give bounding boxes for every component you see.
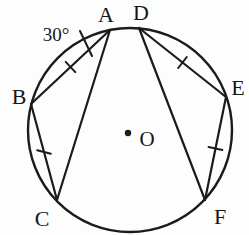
- point-label-b: B: [12, 84, 27, 109]
- tick-mark-ef: [209, 147, 223, 150]
- point-label-a: A: [98, 2, 114, 27]
- tick-mark-de: [178, 57, 187, 68]
- point-label-f: F: [214, 204, 226, 229]
- angle-label-30: 30°: [43, 24, 70, 45]
- point-label-c: C: [35, 206, 50, 231]
- point-label-d: D: [133, 0, 149, 25]
- circle-outline: [28, 28, 232, 232]
- point-label-e: E: [231, 75, 244, 100]
- circle-diagram-canvas: A D B E C F O 30°: [0, 0, 249, 235]
- center-dot: [125, 130, 131, 136]
- center-label-o: O: [139, 127, 154, 151]
- geometry-figure: A D B E C F O 30°: [0, 0, 249, 235]
- figure-lines: [28, 28, 232, 232]
